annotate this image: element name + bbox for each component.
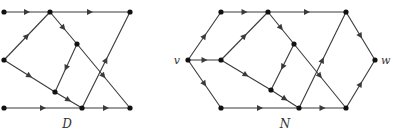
node-label-w: w: [381, 54, 391, 67]
node-n5: [291, 41, 296, 46]
arrowhead-icon: [202, 57, 208, 63]
arrowhead-icon: [25, 72, 32, 78]
arrowhead-icon: [257, 105, 263, 111]
arrowhead-icon: [200, 80, 206, 87]
arrowhead-icon: [87, 9, 93, 15]
node-w: [372, 57, 377, 62]
graph-N: vwN: [174, 9, 391, 131]
node-n9: [343, 105, 348, 110]
node-n2: [265, 9, 270, 14]
node-n7: [218, 105, 223, 110]
node-n1: [218, 9, 223, 14]
node-d5: [74, 41, 79, 46]
arrowhead-icon: [200, 34, 206, 41]
node-label-v: v: [174, 54, 181, 67]
node-d1: [1, 9, 6, 14]
graph-D: D: [1, 9, 132, 131]
graph-label-D: D: [61, 117, 72, 131]
node-n8: [296, 105, 301, 110]
node-v: [185, 57, 190, 62]
node-d2: [47, 9, 52, 14]
node-d4: [1, 57, 6, 62]
node-d7: [1, 105, 6, 110]
node-n4: [218, 57, 223, 62]
arrowhead-icon: [320, 105, 326, 111]
graph-label-N: N: [279, 117, 291, 131]
arrowhead-icon: [281, 95, 288, 101]
node-d8: [79, 105, 84, 110]
node-n3: [343, 9, 348, 14]
arrowhead-icon: [40, 105, 46, 111]
arrowhead-icon: [24, 9, 30, 15]
arrowhead-icon: [242, 9, 248, 15]
node-d3: [127, 9, 132, 14]
node-d9: [127, 105, 132, 110]
arrowhead-icon: [304, 9, 310, 15]
arrowhead-icon: [103, 105, 109, 111]
directed-graphs-canvas: D vwN: [0, 0, 393, 137]
node-d6: [52, 89, 57, 94]
node-n6: [268, 87, 273, 92]
